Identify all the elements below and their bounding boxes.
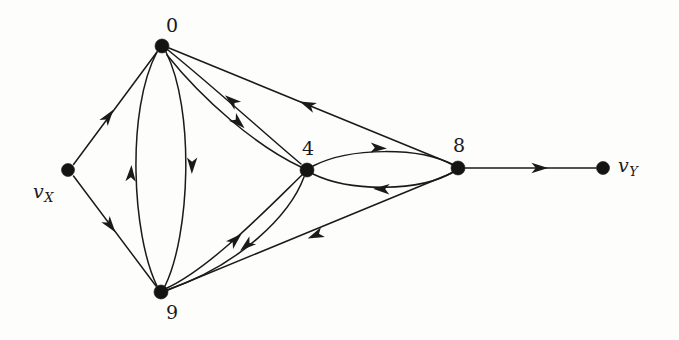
- node-label-n8-text: 8: [453, 134, 465, 156]
- edge-8-to-9-line: [168, 173, 452, 290]
- edge-0-to-9: [165, 52, 197, 286]
- edge-8-to-4-line: [313, 172, 453, 187]
- graph-node-n0[interactable]: [155, 39, 169, 53]
- graph-node-n9[interactable]: [154, 285, 168, 299]
- edge-8-to-vy: [465, 163, 596, 173]
- edge-4-to-0: [168, 50, 301, 164]
- edge-8-to-4: [313, 172, 453, 194]
- edge-vx-to-9-arrowhead-icon: [101, 216, 119, 235]
- node-label-n9-text: 9: [166, 301, 178, 323]
- edge-0-to-9-line: [165, 52, 186, 286]
- edge-9-to-4: [167, 175, 302, 288]
- edge-4-to-0-arrowhead-icon: [222, 91, 241, 109]
- edge-8-to-0-arrowhead-icon: [298, 97, 317, 113]
- edge-0-to-4: [167, 55, 301, 167]
- node-label-n9: 9: [166, 303, 178, 322]
- graph-figure: vX0948vY: [0, 0, 679, 340]
- edge-8-to-4-arrowhead-icon: [373, 183, 390, 194]
- node-label-vX-subscript: X: [44, 190, 53, 205]
- node-label-vY-subscript: Y: [629, 164, 638, 179]
- graph-node-n8[interactable]: [451, 161, 465, 175]
- edge-9-to-4-line: [167, 175, 302, 288]
- node-label-vX-text: v: [33, 180, 44, 202]
- node-label-vY: vY: [618, 156, 638, 178]
- node-label-n4-text: 4: [302, 137, 314, 159]
- node-label-n8: 8: [453, 136, 465, 155]
- edge-vx-to-9: [74, 176, 157, 286]
- nodes-layer: [62, 39, 610, 299]
- edge-9-to-0-line: [136, 52, 157, 286]
- edges-layer: [74, 48, 597, 290]
- edge-8-to-9: [168, 173, 452, 290]
- node-label-n4: 4: [302, 139, 314, 158]
- edge-vx-to-0: [74, 52, 158, 165]
- graph-node-n4[interactable]: [300, 163, 314, 177]
- edge-vx-to-0-line: [74, 52, 158, 165]
- node-label-n0-text: 0: [166, 14, 178, 36]
- graph-canvas: [0, 0, 679, 340]
- node-label-vX: vX: [33, 182, 54, 204]
- graph-node-vX[interactable]: [62, 164, 75, 177]
- graph-node-vY[interactable]: [597, 162, 610, 175]
- node-label-vY-text: v: [618, 154, 629, 176]
- edge-9-to-0-arrowhead-icon: [125, 165, 136, 182]
- edge-0-to-9-arrowhead-icon: [187, 157, 198, 174]
- edge-4-to-8-line: [313, 152, 453, 166]
- edge-4-to-8: [313, 142, 453, 166]
- node-label-n0: 0: [166, 16, 178, 35]
- edge-0-to-4-line: [167, 55, 301, 167]
